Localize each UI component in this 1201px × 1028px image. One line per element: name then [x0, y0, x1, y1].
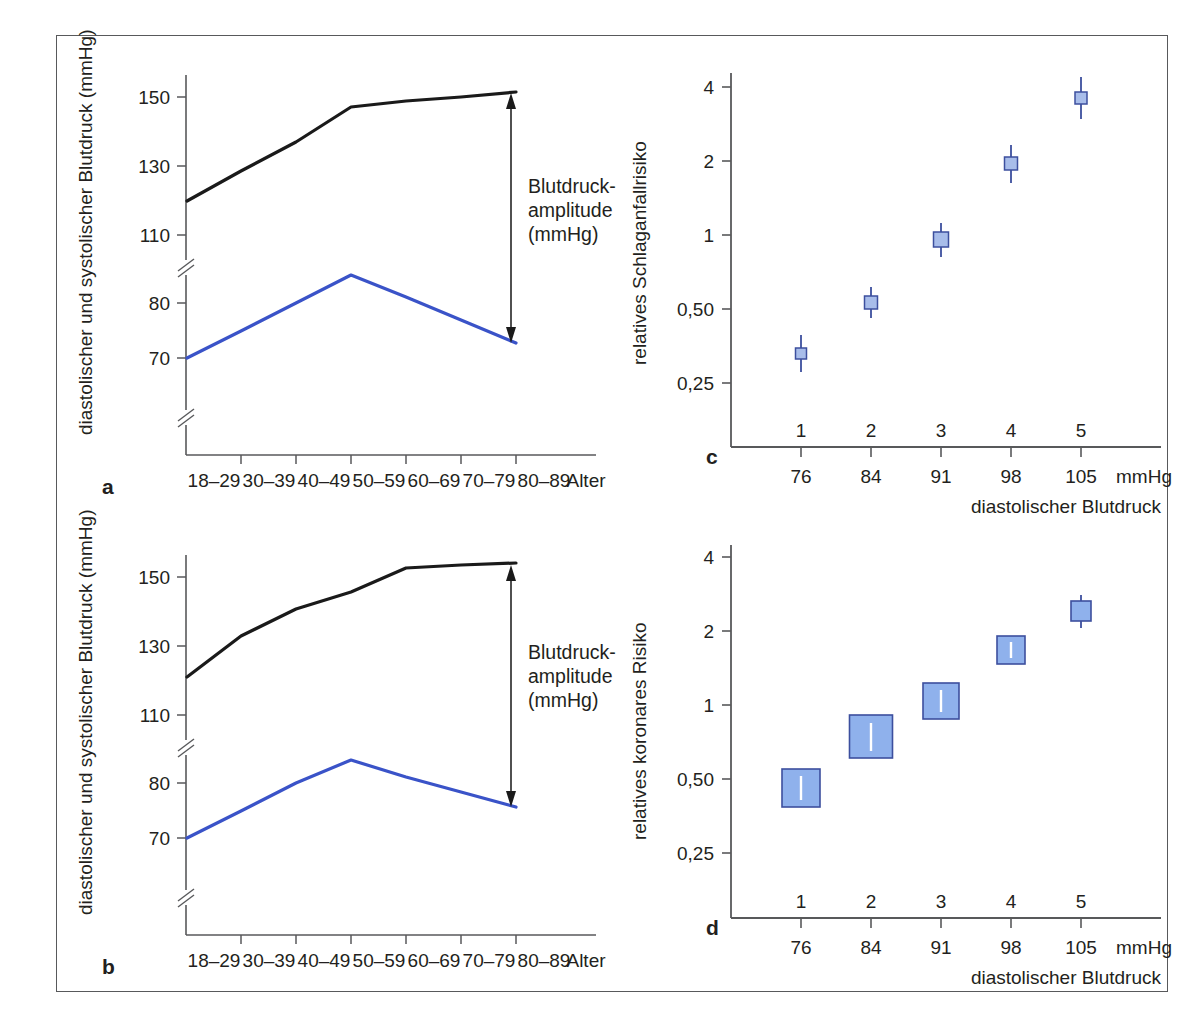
quintile-label: 1 — [796, 891, 807, 912]
data-point-5 — [1071, 595, 1091, 628]
data-point-2 — [850, 715, 893, 758]
x-value-label: 91 — [930, 466, 951, 487]
quintile-label: 5 — [1076, 420, 1087, 441]
x-tick-label: 80–89 — [518, 950, 571, 971]
x-tick-label: 80–89 — [518, 470, 571, 491]
y-tick-label: 70 — [149, 348, 170, 369]
x-axis-title: diastolischer Blutdruck — [971, 967, 1162, 988]
x-value-label: 91 — [930, 937, 951, 958]
panel-c-chart: 4 2 1 0,50 0,25 relatives Schlaganfallri… — [616, 35, 1176, 535]
x-axis-title: Alter — [566, 470, 606, 491]
panel-d-chart: 4 2 1 0,50 0,25 relatives koronares Risi… — [616, 520, 1176, 1020]
y-tick-label: 130 — [138, 156, 170, 177]
systolic-line — [187, 92, 516, 201]
quintile-label: 1 — [796, 420, 807, 441]
quintile-label: 2 — [866, 420, 877, 441]
x-value-label: 84 — [860, 937, 882, 958]
quintile-label: 3 — [936, 420, 947, 441]
panel-b: 150 130 110 80 70 18–29 30–39 40–49 50–5… — [56, 515, 616, 995]
amplitude-label-line3: (mmHg) — [528, 223, 598, 245]
amplitude-arrow — [506, 565, 516, 807]
amplitude-label-line2: amplitude — [528, 665, 613, 687]
y-tick-label: 0,50 — [677, 769, 714, 790]
y-tick-label: 2 — [703, 151, 714, 172]
x-ticks — [241, 935, 516, 944]
y-tick-label: 4 — [703, 77, 714, 98]
x-tick-label: 60–69 — [408, 950, 461, 971]
diastolic-line — [187, 760, 516, 838]
quintile-label: 5 — [1076, 891, 1087, 912]
panel-d: 4 2 1 0,50 0,25 relatives koronares Risi… — [616, 520, 1176, 1020]
x-unit-label: mmHg — [1116, 466, 1172, 487]
x-tick-label: 70–79 — [463, 470, 516, 491]
y-tick-label: 150 — [138, 87, 170, 108]
y-ticks — [177, 97, 186, 358]
data-point-3 — [923, 683, 959, 719]
x-tick-label: 60–69 — [408, 470, 461, 491]
axis-break-lower — [178, 409, 194, 427]
x-tick-label: 40–49 — [298, 950, 351, 971]
amplitude-label-line3: (mmHg) — [528, 689, 598, 711]
x-value-label: 76 — [790, 937, 811, 958]
x-tick-label: 30–39 — [243, 950, 296, 971]
y-tick-label: 70 — [149, 828, 170, 849]
panel-a-chart: 150 130 110 80 70 18–29 30–39 40–49 50–5… — [56, 35, 616, 515]
axis-break-upper — [178, 739, 194, 757]
x-ticks — [801, 447, 1081, 457]
data-point-3 — [934, 223, 949, 257]
y-ticks — [722, 87, 731, 383]
amplitude-arrow — [506, 93, 516, 343]
x-tick-label: 30–39 — [243, 470, 296, 491]
x-value-label: 105 — [1065, 937, 1097, 958]
x-axis-title: diastolischer Blutdruck — [971, 496, 1162, 517]
y-tick-label: 80 — [149, 773, 170, 794]
panel-letter-a: a — [102, 475, 114, 499]
amplitude-label-line2: amplitude — [528, 199, 613, 221]
x-value-label: 98 — [1000, 937, 1021, 958]
y-tick-label: 4 — [703, 547, 714, 568]
x-tick-label: 50–59 — [353, 470, 406, 491]
y-tick-label: 80 — [149, 293, 170, 314]
figure-page: 150 130 110 80 70 18–29 30–39 40–49 50–5… — [0, 0, 1201, 1028]
x-tick-label: 70–79 — [463, 950, 516, 971]
y-ticks — [177, 577, 186, 838]
amplitude-label-line1: Blutdruck- — [528, 175, 616, 197]
data-point-2 — [865, 287, 878, 318]
data-point-5 — [1075, 77, 1087, 119]
panel-b-chart: 150 130 110 80 70 18–29 30–39 40–49 50–5… — [56, 515, 616, 995]
x-value-label: 84 — [860, 466, 882, 487]
y-tick-label: 0,25 — [677, 373, 714, 394]
panel-letter-b: b — [102, 955, 115, 979]
x-value-label: 105 — [1065, 466, 1097, 487]
axis-break-upper — [178, 259, 194, 277]
data-point-4 — [997, 636, 1025, 664]
y-axis-title: relatives Schlaganfallrisiko — [629, 141, 650, 365]
x-axis-title: Alter — [566, 950, 606, 971]
diastolic-line — [187, 275, 516, 358]
x-tick-label: 18–29 — [188, 470, 241, 491]
y-tick-label: 1 — [703, 695, 714, 716]
x-value-label: 76 — [790, 466, 811, 487]
y-tick-label: 150 — [138, 567, 170, 588]
panel-letter-c: c — [706, 445, 718, 469]
y-tick-label: 110 — [140, 705, 170, 726]
quintile-label: 4 — [1006, 420, 1017, 441]
x-tick-label: 18–29 — [188, 950, 241, 971]
y-tick-label: 130 — [138, 636, 170, 657]
panel-letter-d: d — [706, 916, 719, 940]
y-tick-label: 2 — [703, 621, 714, 642]
quintile-label: 2 — [866, 891, 877, 912]
quintile-label: 3 — [936, 891, 947, 912]
x-ticks — [801, 918, 1081, 928]
y-tick-label: 110 — [140, 225, 170, 246]
data-point-1 — [782, 769, 820, 807]
x-value-label: 98 — [1000, 466, 1021, 487]
quintile-label: 4 — [1006, 891, 1017, 912]
x-ticks — [241, 455, 516, 464]
x-tick-label: 50–59 — [353, 950, 406, 971]
y-tick-label: 1 — [703, 225, 714, 246]
y-ticks — [722, 557, 731, 853]
y-tick-label: 0,25 — [677, 843, 714, 864]
amplitude-label-line1: Blutdruck- — [528, 641, 616, 663]
y-axis-title: diastolischer und systolischer Blutdruck… — [75, 510, 96, 915]
